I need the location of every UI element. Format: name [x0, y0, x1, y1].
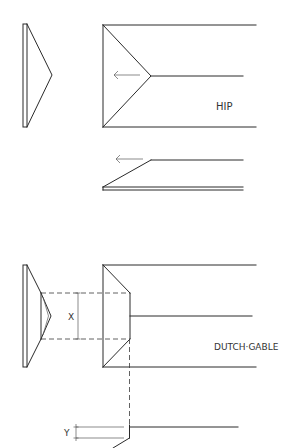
hip-label: HIP — [216, 101, 233, 112]
dutch-gable-label: DUTCH·GABLE — [214, 342, 279, 352]
dimension-x: X — [41, 293, 130, 339]
hip-side-elevation — [23, 24, 52, 127]
roof-diagram: HIP X DUTCH·GABLE — [0, 0, 303, 448]
dimension-x-label: X — [68, 312, 74, 322]
hip-roof-plan: HIP — [103, 25, 256, 127]
hip-front-elevation — [103, 155, 243, 190]
left-arrow-icon — [114, 71, 140, 79]
dimension-y-label: Y — [63, 428, 70, 438]
left-arrow-icon — [116, 155, 143, 163]
dutch-gable-front-elevation — [113, 425, 238, 448]
dutch-gable-side-elevation — [23, 265, 51, 367]
dimension-y: Y — [63, 424, 124, 441]
